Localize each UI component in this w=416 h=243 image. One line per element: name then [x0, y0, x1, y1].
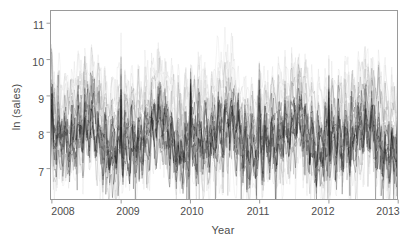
x-tick-label-2011: 2011 [238, 205, 278, 217]
y-tick-label-11: 11 [22, 19, 44, 31]
x-tick-label-2010: 2010 [172, 205, 212, 217]
y-axis-title: ln (sales) [10, 62, 22, 152]
data-series-layer [51, 27, 398, 199]
y-tick-label-8: 8 [22, 129, 44, 141]
x-tick-label-2009: 2009 [108, 205, 148, 217]
x-tick-label-2012: 2012 [303, 205, 343, 217]
chart-figure: ln (sales) Year 11 10 9 8 7 2008 2009 20… [0, 0, 416, 243]
y-tick-label-10: 10 [22, 56, 44, 68]
x-axis-title: Year [163, 224, 283, 236]
y-tick-label-7: 7 [22, 166, 44, 178]
y-tick-label-9: 9 [22, 93, 44, 105]
x-tick-label-2008: 2008 [43, 205, 83, 217]
x-tick-label-2013: 2013 [368, 205, 408, 217]
